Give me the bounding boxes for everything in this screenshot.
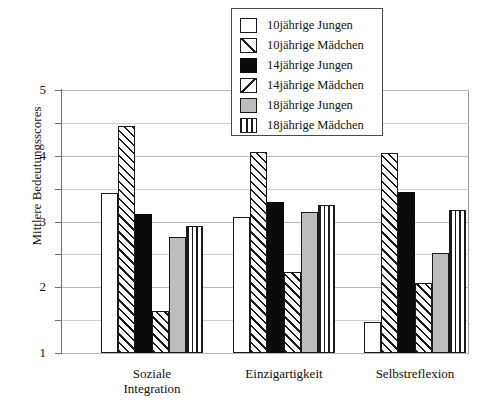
y-tick-label: 4 <box>26 149 46 162</box>
gridline-major <box>62 353 469 354</box>
bar <box>233 217 250 353</box>
legend-item: 14jährige Mädchen <box>240 77 364 94</box>
y-tick <box>55 320 62 321</box>
bar <box>250 152 267 353</box>
grey-swatch-icon <box>240 98 257 113</box>
x-category-label: SozialeIntegration <box>82 366 222 396</box>
black-swatch-icon <box>240 58 257 73</box>
legend-item-label: 18jährige Jungen <box>267 99 353 112</box>
legend-item: 14jährige Jungen <box>240 57 353 74</box>
white-swatch-icon <box>240 18 257 33</box>
bar-chart: Mittlere Bedeutungsscores 12345 SozialeI… <box>0 0 483 404</box>
bar <box>186 226 203 353</box>
legend-item-label: 18jährige Mädchen <box>267 119 364 132</box>
bar <box>152 311 169 353</box>
y-tick <box>55 353 62 354</box>
bar <box>301 212 318 353</box>
y-tick <box>55 222 62 223</box>
diagonal-up-swatch-icon <box>240 38 257 53</box>
legend-item: 10jährige Mädchen <box>240 37 364 54</box>
bar <box>101 193 118 353</box>
bar <box>449 210 466 353</box>
y-axis-title: Mittlere Bedeutungsscores <box>29 91 45 261</box>
bar <box>118 126 135 353</box>
y-tick <box>55 254 62 255</box>
bar <box>432 253 449 353</box>
legend-item-label: 10jährige Jungen <box>267 19 353 32</box>
y-tick <box>55 123 62 124</box>
legend-item-label: 10jährige Mädchen <box>267 39 364 52</box>
y-tick <box>55 189 62 190</box>
y-tick-label: 1 <box>26 346 46 359</box>
y-tick-label: 5 <box>26 83 46 96</box>
x-category-label-line: Selbstreflexion <box>345 366 483 381</box>
bar <box>318 205 335 353</box>
bar-group <box>101 90 203 353</box>
x-category-label: Einzigartigkeit <box>214 366 354 381</box>
diagonal-down-swatch-icon <box>240 78 257 93</box>
y-tick-label: 2 <box>26 280 46 293</box>
y-tick <box>55 90 62 91</box>
legend-item: 18jährige Jungen <box>240 97 353 114</box>
vertical-swatch-icon <box>240 118 257 133</box>
bar <box>381 153 398 353</box>
bar <box>135 214 152 353</box>
x-category-label: Selbstreflexion <box>345 366 483 381</box>
chart-legend: 10jährige Jungen10jährige Mädchen14jähri… <box>231 8 383 136</box>
legend-item-label: 14jährige Jungen <box>267 59 353 72</box>
bar <box>415 283 432 353</box>
x-category-label-line: Soziale <box>82 366 222 381</box>
bar <box>169 237 186 353</box>
legend-item: 10jährige Jungen <box>240 17 353 34</box>
x-category-label-line: Integration <box>82 381 222 396</box>
bar <box>398 192 415 353</box>
y-tick <box>55 156 62 157</box>
x-category-label-line: Einzigartigkeit <box>214 366 354 381</box>
bar <box>284 272 301 353</box>
bar <box>364 322 381 353</box>
y-tick-label: 3 <box>26 215 46 228</box>
legend-item-label: 14jährige Mädchen <box>267 79 364 92</box>
legend-item: 18jährige Mädchen <box>240 117 364 134</box>
bar <box>267 202 284 353</box>
y-tick <box>55 287 62 288</box>
